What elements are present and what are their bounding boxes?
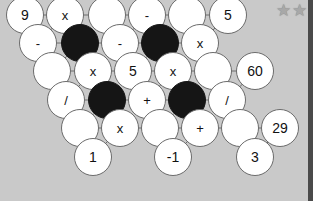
star-icon: ★ [276, 2, 291, 19]
operator-cell: x [101, 109, 139, 147]
right-border [308, 0, 313, 201]
operator-cell: + [181, 109, 219, 147]
clue-number-cell: 3 [236, 138, 274, 176]
puzzle-board: 9x-5--xx5x60/+/x+291-13 ★ ★ [0, 0, 308, 201]
clue-number-cell: 60 [236, 52, 274, 90]
clue-number-cell: -1 [154, 138, 192, 176]
star-icon: ★ [292, 2, 307, 19]
difficulty-rating: ★ ★ [276, 2, 307, 19]
clue-number-cell: 1 [74, 138, 112, 176]
